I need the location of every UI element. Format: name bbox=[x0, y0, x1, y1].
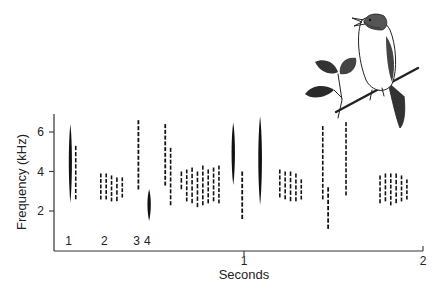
syllable-segment bbox=[241, 196, 243, 200]
syllable bbox=[232, 122, 235, 185]
syllable-segment bbox=[322, 132, 324, 136]
syllable-segment bbox=[345, 145, 347, 149]
syllable-segment bbox=[137, 138, 139, 142]
syllable-segment bbox=[218, 177, 220, 181]
syllable-segment bbox=[284, 183, 286, 187]
syllable-segment bbox=[170, 183, 172, 187]
syllable-segment bbox=[100, 190, 102, 194]
syllable-segment bbox=[137, 185, 139, 189]
x-tick-label: 2 bbox=[420, 254, 427, 268]
syllable-segment bbox=[197, 197, 199, 201]
syllable-segment bbox=[390, 190, 392, 194]
syllable-segment bbox=[213, 185, 215, 189]
syllable-segment bbox=[111, 175, 113, 179]
syllable-segment bbox=[390, 173, 392, 177]
syllable-segment bbox=[202, 183, 204, 187]
note-label: 3 bbox=[133, 234, 140, 248]
syllable-segment bbox=[75, 146, 77, 150]
syllable-segment bbox=[116, 190, 118, 194]
syllable-segment bbox=[327, 218, 329, 222]
note-label: 2 bbox=[101, 234, 108, 248]
syllable-segment bbox=[137, 150, 139, 154]
syllable-segment bbox=[390, 201, 392, 205]
syllable-segment bbox=[300, 179, 302, 183]
syllable-segment bbox=[186, 198, 188, 202]
syllable-segment bbox=[395, 180, 397, 184]
syllable-segment bbox=[121, 194, 123, 198]
syllable-segment bbox=[290, 190, 292, 194]
bird-illustration-icon bbox=[305, 14, 418, 128]
syllable-segment bbox=[164, 136, 166, 140]
syllable-segment bbox=[164, 153, 166, 157]
syllable-segment bbox=[345, 168, 347, 172]
syllable-segment bbox=[401, 181, 403, 185]
note-labels: 1234 bbox=[65, 234, 151, 248]
syllable-segment bbox=[105, 196, 107, 200]
syllable-segment bbox=[322, 178, 324, 182]
syllable-segment bbox=[164, 176, 166, 180]
syllable-segment bbox=[284, 177, 286, 181]
syllable-segment bbox=[111, 187, 113, 191]
syllable-segment bbox=[218, 166, 220, 170]
syllable-segment bbox=[345, 174, 347, 178]
y-tick-label: 6 bbox=[37, 125, 44, 139]
syllable-segment bbox=[105, 179, 107, 183]
syllable-segment bbox=[75, 170, 77, 174]
syllable-segment bbox=[395, 186, 397, 190]
syllable-segment bbox=[164, 159, 166, 163]
syllable-segment bbox=[290, 172, 292, 176]
syllable-segment bbox=[322, 126, 324, 130]
syllable-segment bbox=[105, 173, 107, 177]
syllable-segment bbox=[137, 168, 139, 172]
syllable-segment bbox=[137, 156, 139, 160]
syllable-segment bbox=[218, 199, 220, 203]
syllable-segment bbox=[121, 177, 123, 181]
syllable-segment bbox=[202, 166, 204, 170]
syllable-segment bbox=[345, 163, 347, 167]
syllable-segment bbox=[295, 197, 297, 201]
syllable-segment bbox=[327, 206, 329, 210]
syllable-segment bbox=[170, 201, 172, 205]
syllable-segment bbox=[406, 196, 408, 200]
syllable-segment bbox=[395, 173, 397, 177]
syllable-segment bbox=[170, 148, 172, 152]
syllable-segment bbox=[137, 120, 139, 124]
syllable-segment bbox=[300, 190, 302, 194]
syllable-segment bbox=[406, 190, 408, 194]
syllable-segment bbox=[137, 173, 139, 177]
syllable-segment bbox=[390, 179, 392, 183]
syllable-segment bbox=[164, 147, 166, 151]
syllable-segment bbox=[385, 173, 387, 177]
syllable-segment bbox=[164, 164, 166, 168]
syllable-segment bbox=[191, 174, 193, 178]
syllable-segment bbox=[207, 170, 209, 174]
syllable-segment bbox=[345, 157, 347, 161]
syllable-segment bbox=[322, 143, 324, 147]
syllable-segment bbox=[197, 178, 199, 182]
syllable-segment bbox=[111, 198, 113, 202]
syllable-segment bbox=[295, 179, 297, 183]
syllable-segment bbox=[322, 166, 324, 170]
syllable-segment bbox=[75, 183, 77, 187]
syllable-segment bbox=[390, 185, 392, 189]
syllable bbox=[147, 189, 150, 221]
syllable-segment bbox=[401, 192, 403, 196]
x-tick-label: 1 bbox=[241, 254, 248, 268]
syllable-segment bbox=[345, 128, 347, 132]
syllable-segment bbox=[75, 177, 77, 181]
syllable-segment bbox=[191, 193, 193, 197]
syllable-segment bbox=[345, 122, 347, 126]
syllable-segment bbox=[241, 215, 243, 219]
syllable-segment bbox=[218, 171, 220, 175]
note-label: 4 bbox=[144, 234, 151, 248]
syllable-segment bbox=[385, 179, 387, 183]
syllable-segment bbox=[401, 187, 403, 191]
syllable-segment bbox=[322, 155, 324, 159]
y-tick-label: 2 bbox=[37, 204, 44, 218]
syllable-segment bbox=[385, 185, 387, 189]
syllable-segment bbox=[279, 170, 281, 174]
syllable-segment bbox=[137, 144, 139, 148]
syllable-segment bbox=[284, 195, 286, 199]
syllable-segment bbox=[284, 172, 286, 176]
syllable-segment bbox=[202, 201, 204, 205]
